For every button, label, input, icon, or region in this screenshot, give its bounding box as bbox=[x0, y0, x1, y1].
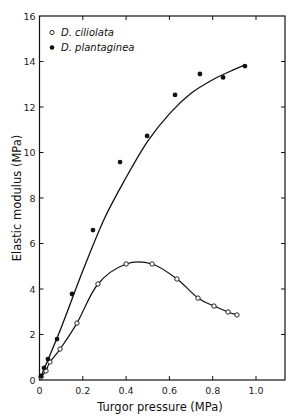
x-tick-label: 1.0 bbox=[248, 385, 263, 396]
data-point-open bbox=[75, 321, 79, 325]
data-point-filled bbox=[91, 228, 96, 233]
x-tick-label: 0.4 bbox=[119, 385, 134, 396]
x-tick-label: 0 bbox=[36, 385, 42, 396]
data-point-filled bbox=[198, 72, 203, 77]
data-point-open bbox=[175, 277, 179, 281]
x-tick-label: 0.2 bbox=[75, 385, 90, 396]
data-point-open bbox=[124, 262, 128, 266]
data-point-filled bbox=[145, 133, 150, 138]
data-point-open bbox=[235, 313, 239, 317]
y-tick-label: 2 bbox=[29, 329, 35, 340]
data-point-filled bbox=[42, 366, 47, 371]
chart: 00.20.40.60.81.00246810121416 D. ciliola… bbox=[0, 0, 296, 416]
legend-label-ciliolata: D. ciliolata bbox=[61, 27, 114, 38]
data-point-filled bbox=[70, 292, 75, 297]
data-point-filled bbox=[46, 357, 51, 362]
y-tick-label: 14 bbox=[23, 56, 35, 67]
data-point-open bbox=[58, 347, 62, 351]
y-axis-title: Elastic modulus (MPa) bbox=[10, 135, 24, 262]
data-point-open bbox=[96, 282, 100, 286]
data-point-open bbox=[196, 296, 200, 300]
filled-circle-icon bbox=[50, 45, 55, 50]
x-tick-label: 0.8 bbox=[205, 385, 220, 396]
data-point-filled bbox=[118, 160, 123, 165]
y-tick-label: 6 bbox=[29, 238, 35, 249]
data-point-open bbox=[150, 262, 154, 266]
data-point-filled bbox=[173, 93, 178, 98]
x-axis-title: Turgor pressure (MPa) bbox=[96, 400, 223, 414]
y-tick-label: 8 bbox=[29, 193, 35, 204]
data-point-filled bbox=[243, 64, 248, 69]
y-tick-label: 4 bbox=[29, 284, 35, 295]
open-circle-icon bbox=[50, 30, 54, 34]
y-tick-label: 10 bbox=[23, 147, 35, 158]
legend-label-plantaginea: D. plantaginea bbox=[61, 42, 134, 53]
data-point-filled bbox=[221, 75, 226, 80]
y-tick-label: 16 bbox=[23, 11, 35, 22]
y-tick-label: 12 bbox=[23, 102, 35, 113]
y-tick-label: 0 bbox=[29, 375, 35, 386]
data-point-filled bbox=[39, 374, 44, 379]
x-tick-label: 0.6 bbox=[162, 385, 177, 396]
data-point-open bbox=[226, 310, 230, 314]
data-point-open bbox=[212, 304, 216, 308]
data-point-filled bbox=[55, 337, 60, 342]
